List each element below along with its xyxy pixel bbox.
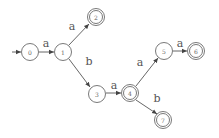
state-1: 1 bbox=[55, 44, 72, 61]
state-label: 3 bbox=[95, 91, 99, 98]
edge-label: a bbox=[177, 37, 184, 50]
edge-label: a bbox=[43, 37, 50, 50]
state-7-accepting: 7 bbox=[155, 112, 172, 129]
edge-4-5: a bbox=[136, 56, 158, 86]
state-2-accepting: 2 bbox=[88, 9, 105, 26]
state-6-accepting: 6 bbox=[188, 43, 205, 60]
state-0: 0 bbox=[22, 44, 39, 61]
edge-0-1: a bbox=[39, 37, 54, 52]
edge-label: a bbox=[69, 20, 76, 33]
state-label: 4 bbox=[128, 90, 132, 97]
edge-4-7: b bbox=[136, 92, 161, 114]
state-3: 3 bbox=[89, 86, 106, 103]
edge-1-3: b bbox=[69, 55, 93, 87]
state-label: 1 bbox=[61, 49, 65, 56]
state-4-accepting: 4 bbox=[122, 85, 139, 102]
edge-label: a bbox=[111, 79, 118, 92]
edge-1-2: a bbox=[69, 20, 89, 45]
state-label: 7 bbox=[161, 117, 165, 124]
state-5: 5 bbox=[156, 43, 173, 60]
edge-3-4: a bbox=[106, 79, 121, 93]
state-label: 5 bbox=[162, 48, 166, 55]
automaton-diagram: a a b a a b a 0 1 2 3 bbox=[0, 0, 219, 138]
state-label: 0 bbox=[28, 49, 32, 56]
state-label: 2 bbox=[94, 14, 98, 21]
edge-5-6: a bbox=[173, 37, 187, 51]
edge-label: b bbox=[153, 92, 160, 105]
state-label: 6 bbox=[194, 48, 198, 55]
edge-label: a bbox=[137, 56, 144, 69]
edge-label: b bbox=[85, 55, 92, 68]
